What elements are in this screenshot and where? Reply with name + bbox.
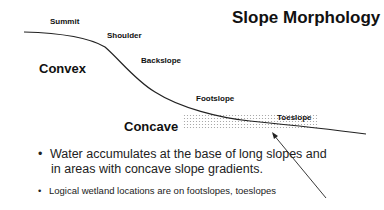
label-footslope: Footslope [196,94,234,103]
bullet-marker: • [38,147,42,161]
arrow-head [272,132,278,139]
label-summit: Summit [50,17,79,26]
bullet-1-line1: Water accumulates at the base of long sl… [50,147,327,161]
label-backslope: Backslope [141,56,181,65]
label-toeslope: Toeslope [277,113,312,122]
bullet-1-line2: in areas with concave slope gradients. [51,162,263,176]
label-shoulder: Shoulder [107,31,142,40]
bullet-marker: • [38,185,41,196]
label-concave: Concave [124,119,178,134]
slide-title: Slope Morphology [232,8,380,28]
slope-diagram [0,0,384,210]
bullet-2: • Logical wetland locations are on foots… [38,185,276,196]
label-convex: Convex [39,61,86,76]
bullet-1: • Water accumulates at the base of long … [38,147,327,177]
bullet-2-line1: Logical wetland locations are on footslo… [49,185,276,196]
